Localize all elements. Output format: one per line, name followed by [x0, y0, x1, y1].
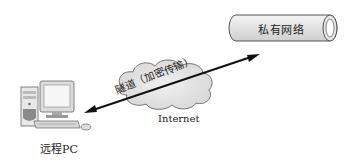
arrowhead-left-icon	[84, 105, 97, 113]
arrowhead-right-icon	[247, 54, 260, 62]
private-network-label: 私有网络	[258, 21, 304, 37]
remote-pc-computer-icon	[21, 81, 91, 130]
internet-label: Internet	[158, 113, 199, 124]
remote-pc-label: 远程PC	[40, 140, 78, 156]
